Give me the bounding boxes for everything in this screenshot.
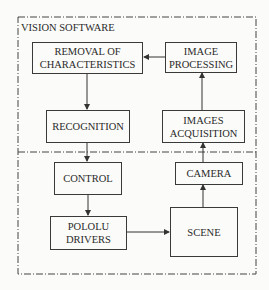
box-label: POLOLU xyxy=(68,221,109,232)
box-removal-of-characteristics: REMOVAL OFCHARACTERISTICS xyxy=(32,42,143,74)
box-control: CONTROL xyxy=(54,162,122,195)
box-label: PROCESSING xyxy=(169,59,233,70)
box-camera: CAMERA xyxy=(175,162,243,185)
box-label: IMAGE xyxy=(184,46,218,57)
box-image-processing: IMAGEPROCESSING xyxy=(165,42,237,73)
box-recognition: RECOGNITION xyxy=(46,110,130,143)
box-label: REMOVAL OF xyxy=(54,46,120,57)
box-pololu-drivers: POLOLUDRIVERS xyxy=(50,216,127,250)
box-label: CONTROL xyxy=(63,172,113,185)
box-label: DRIVERS xyxy=(66,234,111,245)
box-label: IMAGES xyxy=(183,115,223,126)
box-label: ACQUISITION xyxy=(170,128,238,139)
box-label: CAMERA xyxy=(187,167,232,180)
box-scene: SCENE xyxy=(170,207,238,257)
section-title-vision-software: VISION SOFTWARE xyxy=(21,22,115,33)
box-label: SCENE xyxy=(187,226,220,239)
box-images-acquisition: IMAGESACQUISITION xyxy=(162,110,245,143)
box-label: RECOGNITION xyxy=(52,120,124,133)
box-label: CHARACTERISTICS xyxy=(40,59,136,70)
